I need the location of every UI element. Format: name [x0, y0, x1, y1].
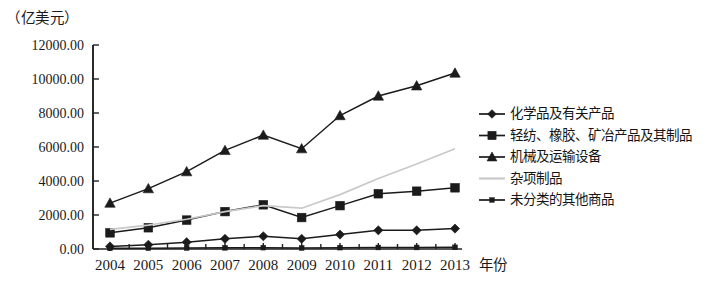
diamond-marker — [412, 226, 421, 235]
legend-item[interactable]: 未分类的其他商品 — [479, 192, 614, 207]
x-axis-tick-label: 2005 — [133, 257, 163, 273]
y-axis-tick-group: 0.002000.004000.006000.008000.0010000.00… — [32, 38, 100, 257]
diamond-marker — [335, 230, 344, 239]
legend-item[interactable]: 机械及运输设备 — [479, 148, 602, 164]
square-marker — [412, 187, 421, 196]
triangle-marker — [143, 183, 153, 192]
legend-label: 机械及运输设备 — [510, 148, 602, 164]
square-marker — [374, 189, 383, 198]
plot-area: 0.002000.004000.006000.008000.0010000.00… — [0, 0, 718, 286]
legend-label: 化学品及有关产品 — [510, 106, 614, 121]
y-axis-tick-label: 10000.00 — [32, 72, 85, 87]
y-axis-tick-label: 4000.00 — [39, 174, 85, 189]
small-square-marker — [490, 198, 495, 203]
small-square-marker — [453, 245, 458, 250]
series-line — [110, 247, 455, 248]
data-series-group — [105, 68, 460, 251]
triangle-marker — [258, 130, 268, 139]
line-chart-svg: 0.002000.004000.006000.008000.0010000.00… — [0, 0, 718, 286]
x-axis-tick-label: 2010 — [325, 257, 355, 273]
square-marker — [336, 201, 345, 210]
diamond-marker — [220, 234, 229, 243]
x-axis-tick-label: 2006 — [172, 257, 203, 273]
small-square-marker — [184, 246, 189, 251]
data-series — [105, 68, 460, 207]
diamond-marker — [259, 232, 268, 241]
legend-label: 轻纺、橡胶、矿冶产品及其制品 — [510, 127, 692, 143]
legend-item[interactable]: 轻纺、橡胶、矿冶产品及其制品 — [479, 127, 692, 143]
small-square-marker — [261, 245, 266, 250]
series-line — [110, 73, 455, 203]
data-series — [106, 184, 460, 238]
legend-label: 杂项制品 — [510, 171, 562, 186]
diamond-marker — [488, 110, 497, 119]
triangle-marker — [105, 198, 115, 207]
square-marker — [488, 131, 496, 139]
diamond-marker — [297, 234, 306, 243]
small-square-marker — [299, 246, 304, 251]
y-axis-tick-label: 0.00 — [60, 242, 85, 257]
small-square-marker — [414, 245, 419, 250]
chart-legend: 化学品及有关产品轻纺、橡胶、矿冶产品及其制品机械及运输设备杂项制品未分类的其他商… — [479, 106, 692, 207]
small-square-marker — [376, 245, 381, 250]
square-marker — [297, 213, 306, 222]
x-axis-tick-label: 2008 — [248, 257, 278, 273]
x-axis-title: 年份 — [479, 257, 508, 273]
y-axis-tick-label: 2000.00 — [39, 208, 85, 223]
triangle-marker — [220, 145, 230, 154]
small-square-marker — [223, 245, 228, 250]
series-line — [110, 229, 455, 247]
small-square-marker — [146, 246, 151, 251]
triangle-marker — [181, 166, 191, 175]
diamond-marker — [450, 224, 459, 233]
series-line — [110, 149, 455, 230]
y-axis-tick-label: 6000.00 — [39, 140, 85, 155]
small-square-marker — [108, 246, 113, 251]
x-axis-tick-label: 2013 — [440, 257, 470, 273]
diamond-marker — [374, 226, 383, 235]
x-axis-tick-label: 2012 — [402, 257, 432, 273]
legend-item[interactable]: 杂项制品 — [479, 171, 562, 186]
x-axis-tick-label: 2007 — [210, 257, 241, 273]
triangle-marker — [335, 110, 345, 119]
small-square-marker — [338, 245, 343, 250]
x-axis-tick-label: 2004 — [95, 257, 126, 273]
x-axis-tick-label: 2009 — [287, 257, 317, 273]
y-axis-tick-label: 12000.00 — [32, 38, 85, 53]
legend-item[interactable]: 化学品及有关产品 — [479, 106, 614, 121]
series-line — [110, 188, 455, 233]
data-series — [110, 149, 455, 230]
y-axis-tick-label: 8000.00 — [39, 106, 85, 121]
square-marker — [451, 184, 460, 193]
legend-label: 未分类的其他商品 — [510, 192, 614, 207]
chart-container: （亿美元） 0.002000.004000.006000.008000.0010… — [0, 0, 718, 286]
x-axis-tick-label: 2011 — [364, 257, 393, 273]
triangle-marker — [450, 68, 460, 77]
